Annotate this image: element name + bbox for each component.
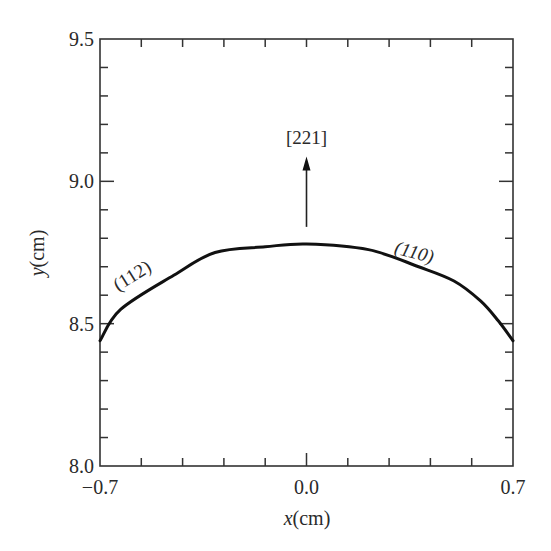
minor-ticks: [100, 39, 513, 466]
profile-curve: [100, 244, 513, 341]
y-tick-label: 9.0: [69, 170, 94, 192]
direction-arrow: [303, 157, 311, 227]
x-axis-label: x(cm): [283, 507, 331, 530]
x-axis-unit: (cm): [293, 507, 331, 530]
y-axis-label: y(cm): [26, 230, 49, 279]
x-tick-label: 0.7: [501, 476, 526, 498]
annotation-label: [221]: [286, 127, 327, 148]
arrow-head-icon: [303, 157, 311, 171]
y-tick-label: 8.5: [69, 313, 94, 335]
plot-frame: [100, 39, 513, 466]
annotations: (112)(110)[221]: [109, 127, 436, 296]
chart: −0.70.00.78.08.59.09.5 (112)(110)[221] x…: [0, 0, 551, 551]
annotation-label: (110): [392, 237, 436, 269]
y-tick-label: 8.0: [69, 455, 94, 477]
y-tick-label: 9.5: [69, 28, 94, 50]
x-tick-label: 0.0: [294, 476, 319, 498]
y-axis-unit: (cm): [26, 230, 49, 268]
chart-svg: −0.70.00.78.08.59.09.5 (112)(110)[221] x…: [0, 0, 551, 551]
x-tick-label: −0.7: [82, 476, 118, 498]
y-axis-var: y: [26, 267, 49, 278]
x-axis-var: x: [283, 507, 293, 529]
